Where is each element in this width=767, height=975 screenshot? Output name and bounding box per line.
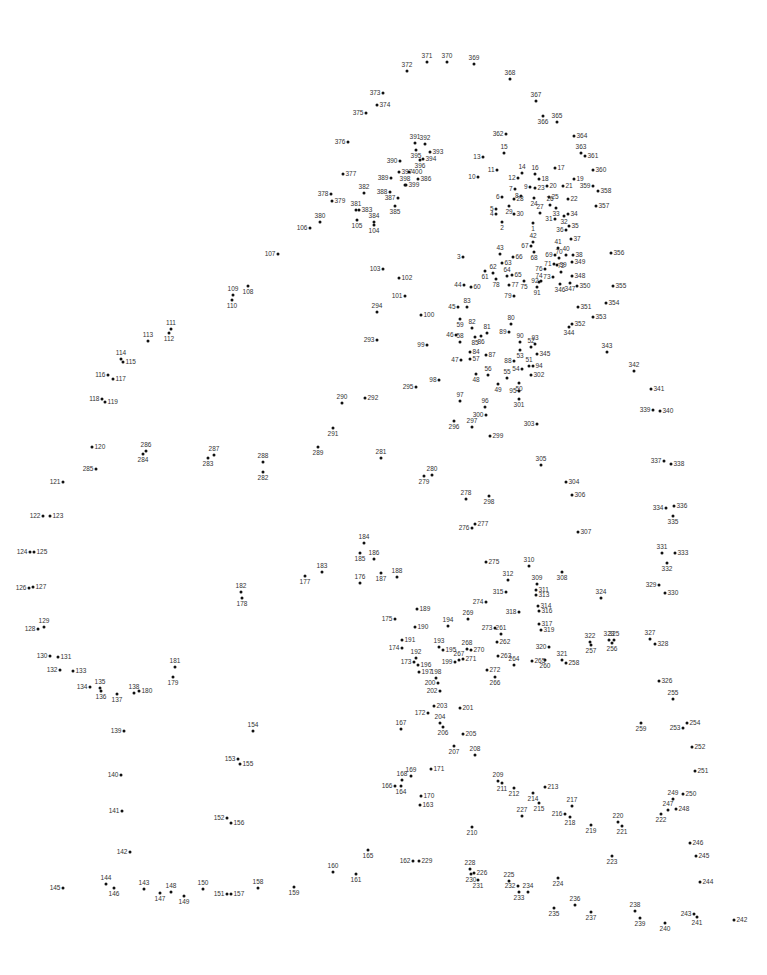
dot-number-label: 175	[382, 615, 393, 622]
dot-number-label: 355	[616, 282, 627, 289]
dot-number-label: 266	[490, 679, 501, 686]
dot-point: 71	[544, 260, 555, 267]
dot-marker	[536, 353, 539, 356]
dot-marker	[567, 198, 570, 201]
dot-marker	[482, 156, 485, 159]
dot-number-label: 148	[166, 882, 177, 889]
dot-marker	[309, 227, 312, 230]
dot-point: 132	[47, 666, 62, 673]
dot-marker	[513, 198, 516, 201]
dot-marker	[376, 339, 379, 342]
dot-marker	[29, 551, 32, 554]
dot-point: 216	[552, 810, 567, 817]
dot-number-label: 172	[415, 709, 426, 716]
dot-number-label: 132	[47, 666, 58, 673]
dot-point: 185	[355, 552, 366, 563]
dot-point: 166	[382, 782, 397, 789]
dot-marker	[401, 639, 404, 642]
dot-number-label: 350	[580, 282, 591, 289]
dot-number-label: 242	[737, 916, 748, 923]
dot-number-label: 221	[617, 828, 628, 835]
dot-marker	[500, 633, 503, 636]
dot-point: 174	[389, 644, 404, 651]
dot-number-label: 185	[355, 555, 366, 562]
dot-marker	[663, 460, 666, 463]
dot-marker	[459, 341, 462, 344]
dot-marker	[592, 185, 595, 188]
dot-marker	[612, 285, 615, 288]
dot-marker	[170, 891, 173, 894]
dot-marker	[499, 253, 502, 256]
dot-marker	[213, 454, 216, 457]
dot-point: 326	[658, 677, 673, 684]
dot-number-label: 181	[170, 657, 181, 664]
dot-point: 345	[536, 350, 551, 357]
dot-point: 119	[104, 398, 119, 405]
dot-marker	[534, 187, 537, 190]
dot-point: 190	[414, 623, 429, 630]
dot-marker	[240, 591, 243, 594]
dot-number-label: 313	[539, 591, 550, 598]
dot-point: 54	[512, 365, 523, 372]
dot-number-label: 77	[512, 281, 520, 288]
dot-marker	[426, 61, 429, 64]
dot-marker	[376, 104, 379, 107]
dot-marker	[474, 523, 477, 526]
dot-point: 281	[376, 448, 387, 460]
dot-point: 334	[653, 504, 668, 511]
dot-point: 399	[405, 181, 420, 188]
dot-marker	[565, 662, 568, 665]
dot-marker	[733, 919, 736, 922]
dot-marker	[573, 178, 576, 181]
dot-point: 304	[565, 478, 580, 485]
dot-point: 3	[457, 253, 465, 260]
dot-point: 208	[470, 745, 481, 757]
dot-number-label: 294	[372, 302, 383, 309]
dot-marker	[145, 450, 148, 453]
dot-point: 21	[562, 182, 574, 189]
dot-point: 224	[553, 877, 564, 888]
dot-number-label: 86	[477, 338, 485, 345]
dot-number-label: 56	[484, 365, 492, 372]
dot-marker	[398, 277, 401, 280]
dot-number-label: 115	[126, 358, 137, 365]
dot-number-label: 21	[566, 182, 574, 189]
dot-point: 167	[396, 719, 407, 731]
dot-marker	[466, 306, 469, 309]
dot-marker	[174, 666, 177, 669]
dot-number-label: 252	[695, 743, 706, 750]
dot-number-label: 3	[457, 253, 461, 260]
dot-point: 1	[531, 222, 535, 233]
dot-point: 38	[572, 251, 584, 258]
dot-point: 353	[592, 313, 607, 320]
dot-point: 18	[538, 175, 550, 182]
dot-number-label: 222	[656, 816, 667, 823]
dot-number-label: 72	[557, 262, 565, 269]
dot-marker	[447, 625, 450, 628]
dot-marker	[536, 423, 539, 426]
dot-number-label: 68	[530, 254, 538, 261]
dot-point: 250	[682, 790, 697, 797]
dot-point: 254	[686, 719, 701, 726]
dot-number-label: 143	[139, 879, 150, 886]
dot-marker	[513, 213, 516, 216]
dot-number-label: 130	[37, 652, 48, 659]
dot-point: 372	[402, 61, 413, 73]
dot-marker	[470, 286, 473, 289]
dot-point: 292	[364, 394, 379, 401]
dot-number-label: 382	[359, 183, 370, 190]
dot-number-label: 381	[351, 200, 362, 207]
dot-point: 358	[597, 187, 612, 194]
dot-number-label: 41	[554, 238, 562, 245]
dot-point: 154	[248, 721, 259, 733]
dot-number-label: 279	[419, 478, 430, 485]
dot-number-label: 361	[588, 152, 599, 159]
dot-marker	[469, 868, 472, 871]
dot-marker	[410, 775, 413, 778]
dot-number-label: 299	[493, 432, 504, 439]
dot-point: 35	[568, 222, 580, 229]
dot-number-label: 116	[95, 371, 106, 378]
dot-number-label: 170	[424, 792, 435, 799]
dot-point: 245	[695, 852, 710, 859]
dot-point: 228	[465, 859, 476, 871]
